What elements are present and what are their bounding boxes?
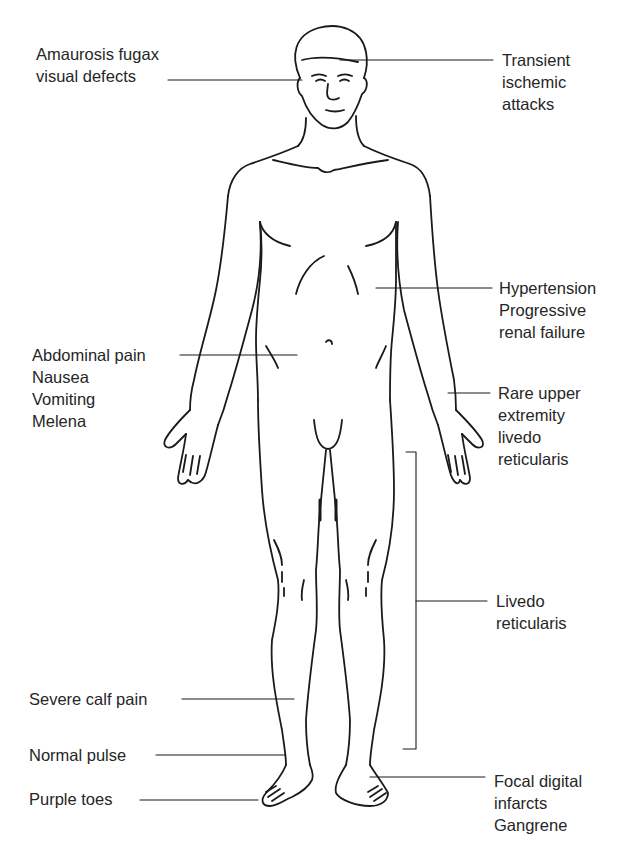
label-transient-ischemic-attacks: Transient ischemic attacks	[502, 49, 570, 115]
anatomical-diagram: Amaurosis fugax visual defects Abdominal…	[0, 0, 635, 856]
label-severe-calf-pain: Severe calf pain	[29, 688, 147, 710]
label-line: Amaurosis fugax	[36, 43, 159, 65]
label-amaurosis-fugax: Amaurosis fugax visual defects	[36, 43, 159, 87]
label-normal-pulse: Normal pulse	[29, 744, 126, 766]
label-line: Vomiting	[32, 388, 146, 410]
label-line: infarcts	[494, 792, 582, 814]
label-line: Gangrene	[494, 814, 582, 836]
label-line: attacks	[502, 93, 570, 115]
label-line: Abdominal pain	[32, 344, 146, 366]
label-line: Normal pulse	[29, 744, 126, 766]
label-line: Focal digital	[494, 770, 582, 792]
head-outline	[295, 26, 367, 78]
label-abdominal-pain: Abdominal pain Nausea Vomiting Melena	[32, 344, 146, 432]
label-line: Severe calf pain	[29, 688, 147, 710]
label-line: Transient	[502, 49, 570, 71]
label-line: Rare upper	[498, 382, 581, 404]
label-line: Nausea	[32, 366, 146, 388]
label-line: visual defects	[36, 65, 159, 87]
label-hypertension: Hypertension Progressive renal failure	[499, 277, 596, 343]
label-purple-toes: Purple toes	[29, 788, 112, 810]
label-line: reticularis	[498, 448, 581, 470]
label-line: Hypertension	[499, 277, 596, 299]
label-line: reticularis	[496, 612, 567, 634]
label-line: Melena	[32, 410, 146, 432]
label-rare-upper-extremity-livedo: Rare upper extremity livedo reticularis	[498, 382, 581, 470]
label-livedo-reticularis: Livedo reticularis	[496, 590, 567, 634]
label-line: ischemic	[502, 71, 570, 93]
label-line: extremity	[498, 404, 581, 426]
label-line: Livedo	[496, 590, 567, 612]
label-focal-digital-infarcts: Focal digital infarcts Gangrene	[494, 770, 582, 836]
label-line: Purple toes	[29, 788, 112, 810]
label-line: livedo	[498, 426, 581, 448]
label-line: Progressive	[499, 299, 596, 321]
label-line: renal failure	[499, 321, 596, 343]
